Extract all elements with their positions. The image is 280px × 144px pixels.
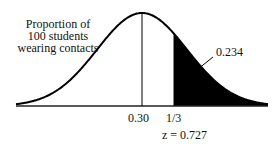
tail-area-label: 0.234	[216, 46, 243, 58]
cutoff-tick-label: 1/3	[166, 112, 181, 124]
title-line-3: wearing contacts	[14, 42, 102, 54]
z-score-label: z = 0.727	[162, 129, 207, 141]
mean-tick-label: 0.30	[128, 112, 149, 124]
normal-distribution-diagram: Proportion of 100 students wearing conta…	[0, 0, 280, 144]
diagram-title: Proportion of 100 students wearing conta…	[14, 18, 102, 54]
